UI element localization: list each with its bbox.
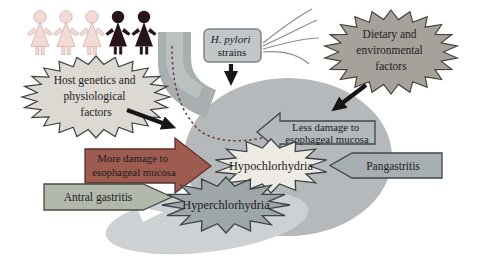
less-damage-label: Less damage to esophageal mucosa [285,121,369,145]
hypochlorhydria-label: Hypochlorhydria [229,159,314,173]
person-light-icon [80,11,105,55]
person-dark-icon [106,11,131,55]
flagella-icon [263,9,319,64]
population-figures [28,11,157,55]
person-light-icon [54,11,79,55]
node-pangastritis: Pangastritis [330,153,442,178]
node-dietary-factors: Dietary and environmental factors [325,10,458,94]
person-light-icon [28,11,53,55]
node-hyperchlorhydria: Hyperchlorhydria [162,177,290,233]
diagram-svg: Host genetics and physiological factors … [0,0,477,267]
flagellum-line [263,52,309,64]
person-dark-icon [132,11,157,55]
flagellum-line [263,38,319,49]
figure-canvas: Host genetics and physiological factors … [0,0,477,267]
pangastritis-label: Pangastritis [366,160,420,173]
antral-gastritis-label: Antral gastritis [64,191,133,204]
node-antral-gastritis: Antral gastritis [44,184,172,210]
node-host-genetics: Host genetics and physiological factors [22,56,170,138]
node-h-pylori-strains: H. pylori strains [204,29,261,62]
hyperchlorhydria-label: Hyperchlorhydria [182,198,270,212]
